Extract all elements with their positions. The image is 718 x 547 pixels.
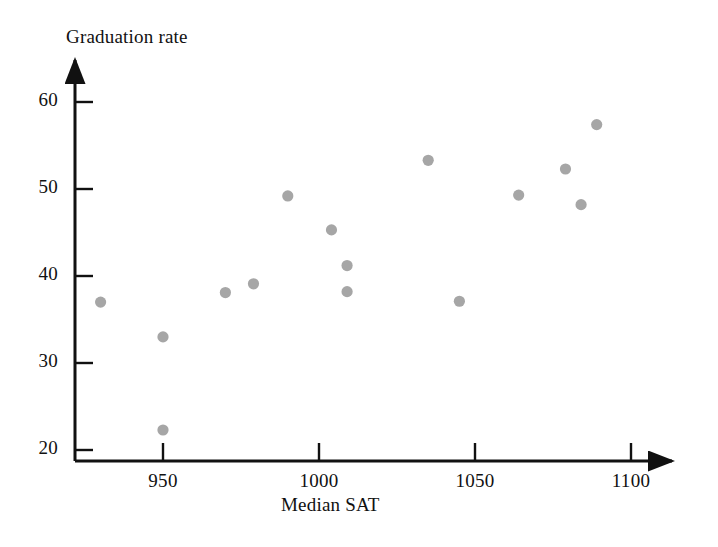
plot-canvas <box>0 0 718 547</box>
data-point <box>157 331 168 342</box>
x-tick-label-1000: 1000 <box>289 470 349 492</box>
data-point <box>326 224 337 235</box>
data-point <box>341 286 352 297</box>
data-point <box>513 189 524 200</box>
tick-marks <box>75 102 631 461</box>
y-tick-label-50: 50 <box>14 176 58 198</box>
data-point <box>282 190 293 201</box>
y-tick-label-60: 60 <box>14 89 58 111</box>
x-tick-label-1100: 1100 <box>601 470 661 492</box>
data-point <box>454 296 465 307</box>
x-tick-label-1050: 1050 <box>445 470 505 492</box>
data-point <box>560 163 571 174</box>
data-point <box>248 278 259 289</box>
data-point <box>591 119 602 130</box>
data-point <box>95 297 106 308</box>
y-tick-label-20: 20 <box>14 437 58 459</box>
data-point-group <box>95 119 602 436</box>
data-point <box>341 260 352 271</box>
data-point <box>157 424 168 435</box>
axis-lines <box>75 60 672 461</box>
data-point <box>575 199 586 210</box>
x-tick-label-950: 950 <box>133 470 193 492</box>
y-tick-label-40: 40 <box>14 263 58 285</box>
data-point <box>220 287 231 298</box>
data-point <box>423 155 434 166</box>
y-tick-label-30: 30 <box>14 350 58 372</box>
scatter-plot-figure: Graduation rate Median SAT 2030405060 95… <box>0 0 718 547</box>
